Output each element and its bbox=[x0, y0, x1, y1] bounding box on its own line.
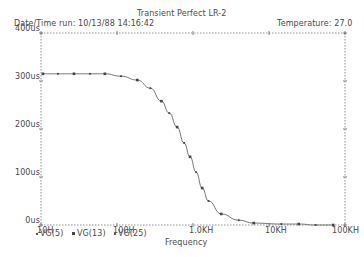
square-marker-icon bbox=[72, 232, 75, 235]
data-point-marker bbox=[252, 222, 255, 225]
data-point-marker bbox=[176, 126, 179, 129]
y-tick-label: 200us bbox=[15, 120, 40, 129]
data-point-marker bbox=[104, 73, 107, 76]
data-point-marker bbox=[183, 142, 185, 144]
data-point-marker bbox=[160, 100, 163, 103]
y-tick-label: 100us bbox=[15, 168, 40, 177]
data-point-marker bbox=[208, 200, 210, 202]
data-point-marker bbox=[136, 79, 139, 82]
data-point-marker bbox=[149, 87, 151, 89]
legend-item-vg25: VG(25) bbox=[114, 229, 147, 238]
dot-marker-icon bbox=[114, 233, 116, 235]
x-tick-label: 10KH bbox=[265, 226, 287, 235]
data-point-marker bbox=[89, 73, 91, 75]
legend-item-vg5: VG(5) bbox=[36, 229, 64, 238]
data-point-marker bbox=[238, 219, 240, 221]
y-tick-label: 400us bbox=[15, 24, 40, 33]
data-point-marker bbox=[42, 73, 45, 76]
x-axis-label: Frequency bbox=[165, 238, 207, 247]
data-point-marker bbox=[189, 156, 192, 159]
x-tick-label: 1.0KH bbox=[189, 226, 213, 235]
data-point-marker bbox=[220, 213, 223, 216]
data-point-marker bbox=[280, 223, 282, 225]
series-line bbox=[43, 74, 333, 225]
data-point-marker bbox=[120, 75, 122, 77]
dot-marker-icon bbox=[36, 233, 38, 235]
legend-item-vg13: VG(13) bbox=[72, 229, 106, 238]
data-point-marker bbox=[201, 187, 204, 190]
y-tick-label: 300us bbox=[15, 72, 40, 81]
y-tick-label: 0us bbox=[25, 216, 40, 225]
data-point-marker bbox=[315, 224, 317, 226]
data-point-marker bbox=[195, 171, 197, 173]
data-point-marker bbox=[168, 112, 170, 114]
data-point-marker bbox=[57, 73, 59, 75]
plot-area bbox=[0, 0, 364, 257]
x-tick-label: 100KH bbox=[332, 226, 359, 235]
data-point-marker bbox=[297, 223, 300, 226]
data-point-marker bbox=[73, 73, 76, 76]
